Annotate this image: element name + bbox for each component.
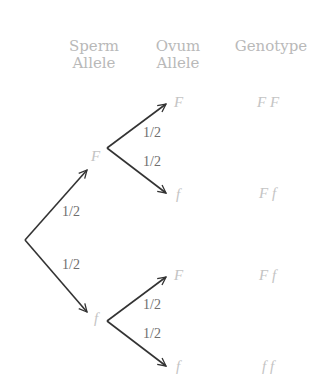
- prob-F-down: 1/2: [143, 154, 161, 170]
- prob-root-up: 1/2: [62, 204, 80, 220]
- sperm-allele-F: F: [91, 148, 100, 165]
- tree-arrows: [0, 0, 329, 387]
- prob-f-down: 1/2: [143, 326, 161, 342]
- ovum-allele-3: F: [174, 267, 183, 284]
- prob-root-down: 1/2: [62, 257, 80, 273]
- prob-F-up: 1/2: [143, 125, 161, 141]
- genotype-2: F f: [259, 185, 276, 202]
- genotype-1: F F: [257, 94, 279, 111]
- ovum-allele-4: f: [176, 358, 180, 375]
- genotype-4: f f: [262, 358, 274, 375]
- ovum-allele-2: f: [176, 186, 180, 203]
- sperm-allele-f: f: [94, 310, 98, 327]
- genotype-3: F f: [259, 267, 276, 284]
- ovum-allele-1: F: [174, 94, 183, 111]
- prob-f-up: 1/2: [143, 297, 161, 313]
